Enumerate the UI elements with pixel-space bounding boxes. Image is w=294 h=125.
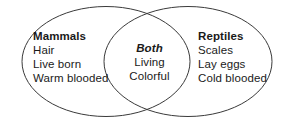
intersection-item: Colorful xyxy=(110,69,189,83)
left-set-heading: Mammals xyxy=(33,29,109,43)
left-set-item: Warm blooded xyxy=(33,71,109,85)
left-set-item: Live born xyxy=(33,57,109,71)
right-set-item: Cold blooded xyxy=(198,71,267,85)
right-set-label-group: Reptiles Scales Lay eggs Cold blooded xyxy=(198,29,267,85)
right-set-item: Lay eggs xyxy=(198,57,267,71)
left-set-label-group: Mammals Hair Live born Warm blooded xyxy=(33,29,109,85)
intersection-heading: Both xyxy=(110,41,189,55)
intersection-item: Living xyxy=(110,55,189,69)
right-set-heading: Reptiles xyxy=(198,29,267,43)
intersection-label-group: Both Living Colorful xyxy=(110,41,189,83)
left-set-item: Hair xyxy=(33,43,109,57)
right-set-item: Scales xyxy=(198,43,267,57)
venn-diagram: Mammals Hair Live born Warm blooded Both… xyxy=(0,0,294,125)
